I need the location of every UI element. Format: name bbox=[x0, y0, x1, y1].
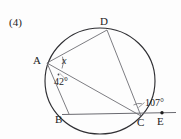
point-label-c: C bbox=[137, 117, 144, 128]
point-label-b: B bbox=[55, 114, 62, 125]
chord-dc bbox=[107, 30, 141, 116]
point-label-e: E bbox=[157, 116, 164, 127]
geometry-canvas bbox=[0, 0, 181, 139]
angle-label-107: 107° bbox=[145, 98, 164, 108]
point-label-d: D bbox=[100, 16, 108, 27]
chord-ad bbox=[47, 30, 107, 63]
chord-ac bbox=[47, 63, 141, 116]
angle-label-x: x bbox=[62, 56, 66, 66]
angle-label-42: 42° bbox=[54, 77, 68, 87]
angle-arc-107 bbox=[134, 103, 142, 105]
point-marker-e bbox=[160, 111, 163, 114]
problem-number: (4) bbox=[9, 17, 22, 28]
chord-ab bbox=[47, 63, 69, 114]
geometry-figure: (4) D A B C E x 42° 107° bbox=[0, 0, 181, 139]
point-label-a: A bbox=[33, 55, 41, 66]
